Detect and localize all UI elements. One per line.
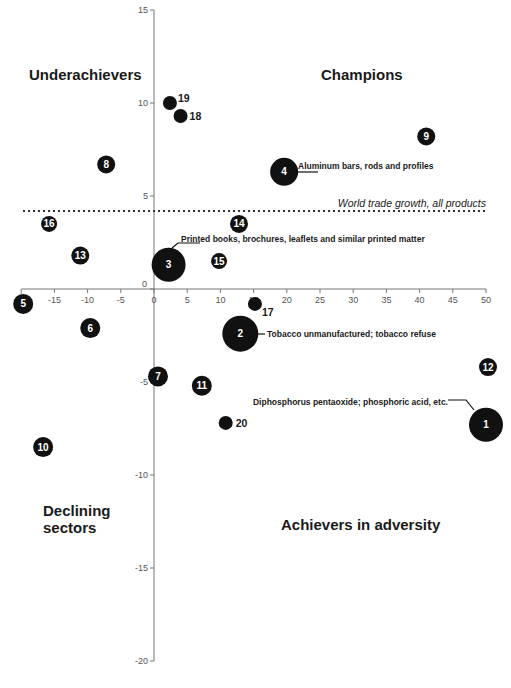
bubble-label-12: 12 (482, 362, 494, 373)
bubble-label-8: 8 (103, 159, 109, 170)
x-tick-label: 30 (348, 295, 358, 305)
x-tick-label: -15 (48, 295, 61, 305)
y-tick-label: 15 (138, 5, 148, 15)
x-tick-label: 40 (415, 295, 425, 305)
annotation-leader-1 (448, 400, 474, 410)
bubble-label-9: 9 (423, 131, 429, 142)
bubble-label-7: 7 (155, 371, 161, 382)
bubble-label-15: 15 (214, 256, 226, 267)
annotation-3: Printed books, brochures, leaflets and s… (181, 234, 425, 244)
x-tick-label: 45 (448, 295, 458, 305)
bubble-label-20: 20 (236, 417, 248, 429)
bubble-label-4: 4 (281, 166, 287, 177)
bubble-label-1: 1 (483, 419, 489, 430)
bubble-label-17: 17 (262, 306, 274, 318)
bubble-label-14: 14 (233, 218, 245, 229)
bubble-17 (248, 297, 262, 311)
x-tick-label: 10 (215, 295, 225, 305)
y-tick-label: -10 (135, 470, 148, 480)
x-tick-label: -10 (81, 295, 94, 305)
y-tick-label: -15 (135, 563, 148, 573)
bubble-label-6: 6 (87, 323, 93, 334)
x-tick-label: -5 (117, 295, 125, 305)
plot-area: -15-10-505101520253035404550151050-5-10-… (0, 0, 511, 688)
x-tick-label: 50 (481, 295, 491, 305)
quadrant-label-declining-sectors: Declining sectors (43, 502, 133, 536)
bubble-19 (163, 96, 177, 110)
quadrant-label-achievers-in-adversity: Achievers in adversity (281, 516, 440, 533)
bubble-label-3: 3 (166, 259, 172, 270)
bubble-label-5: 5 (20, 298, 26, 309)
bubble-label-18: 18 (190, 110, 202, 122)
quadrant-label-champions: Champions (321, 66, 403, 83)
bubble-label-11: 11 (197, 380, 208, 391)
bubble-label-2: 2 (238, 328, 244, 339)
y-tick-label: -20 (135, 656, 148, 666)
y-tick-label: 5 (143, 191, 148, 201)
x-tick-label: 20 (282, 295, 292, 305)
x-tick-label: 0 (151, 295, 156, 305)
bubble-label-13: 13 (75, 250, 87, 261)
world-trade-growth-label: World trade growth, all products (338, 197, 487, 209)
x-tick-label: 35 (381, 295, 391, 305)
bubble-label-16: 16 (44, 218, 56, 229)
bubble-chart: -15-10-505101520253035404550151050-5-10-… (0, 0, 511, 688)
bubble-label-10: 10 (38, 442, 50, 453)
quadrant-label-underachievers: Underachievers (29, 66, 142, 83)
bubble-label-19: 19 (178, 92, 190, 104)
bubble-18 (174, 109, 188, 123)
bubble-20 (219, 416, 233, 430)
y-tick-label: 10 (138, 98, 148, 108)
x-tick-label: 25 (315, 295, 325, 305)
x-tick-label: 5 (185, 295, 190, 305)
annotation-1: Diphosphorus pentaoxide; phosphoric acid… (253, 397, 448, 407)
y-tick-label: 0 (142, 279, 147, 289)
annotation-2: Tobacco unmanufactured; tobacco refuse (267, 329, 436, 339)
annotation-4: Aluminum bars, rods and profiles (298, 161, 434, 171)
y-tick-label: -5 (140, 377, 148, 387)
